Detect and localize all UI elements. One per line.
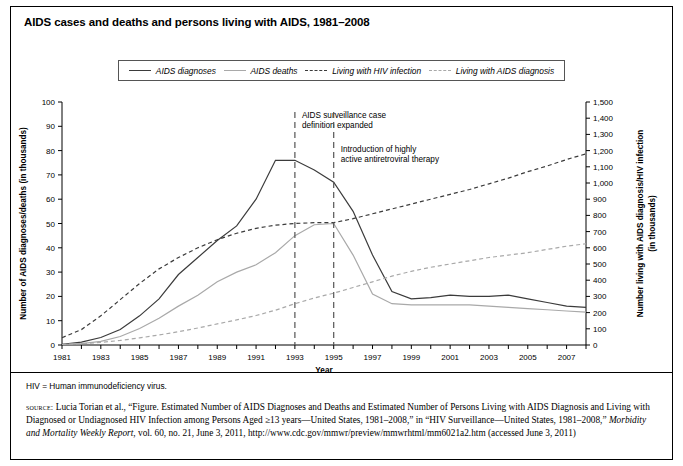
x-tick-label: 1983 bbox=[92, 353, 110, 362]
figure-page: AIDS cases and deaths and persons living… bbox=[0, 0, 683, 466]
y-tick-label-right: 0 bbox=[593, 341, 598, 350]
y-tick-label-left: 0 bbox=[51, 341, 56, 350]
y-axis-title-right-line: Number living with AIDS diagnosis/HIV in… bbox=[636, 130, 645, 318]
annotation-text-1993: AIDS surveillance case bbox=[302, 111, 387, 120]
x-tick-label: 1997 bbox=[364, 353, 382, 362]
y-tick-label-right: 1,400 bbox=[593, 114, 614, 123]
annotation-text-1993: definition expanded bbox=[302, 121, 373, 130]
x-tick-label: 2007 bbox=[558, 353, 576, 362]
x-tick-label: 1989 bbox=[208, 353, 226, 362]
source-label: source: bbox=[26, 403, 53, 412]
y-tick-label-left: 50 bbox=[46, 220, 55, 229]
y-tick-label-right: 900 bbox=[593, 195, 607, 204]
x-tick-label: 1993 bbox=[286, 353, 304, 362]
y-tick-label-right: 200 bbox=[593, 309, 607, 318]
y-tick-label-right: 700 bbox=[593, 228, 607, 237]
y-axis-title-left: Number of AIDS diagnoses/deaths (in thou… bbox=[19, 127, 28, 320]
y-tick-label-left: 20 bbox=[46, 292, 55, 301]
x-tick-label: 1995 bbox=[325, 353, 343, 362]
series-line-aids-deaths bbox=[62, 224, 586, 345]
y-tick-label-left: 30 bbox=[46, 268, 55, 277]
x-tick-label: 2003 bbox=[480, 353, 498, 362]
series-line-living-with-hiv-infection bbox=[62, 154, 586, 338]
y-tick-label-left: 90 bbox=[46, 122, 55, 131]
x-tick-label: 1991 bbox=[247, 353, 265, 362]
y-tick-label-left: 40 bbox=[46, 244, 55, 253]
y-tick-label-right: 1,200 bbox=[593, 147, 614, 156]
chart-area: 0102030405060708090100010020030040050060… bbox=[0, 0, 683, 380]
y-tick-label-right: 300 bbox=[593, 292, 607, 301]
series-line-aids-diagnoses bbox=[62, 160, 586, 344]
y-tick-label-left: 60 bbox=[46, 195, 55, 204]
series-line-living-with-aids-diagnosis bbox=[62, 244, 586, 345]
x-tick-label: 1985 bbox=[131, 353, 149, 362]
y-tick-label-right: 1,000 bbox=[593, 179, 614, 188]
y-axis-title-right-line: (in thousands) bbox=[648, 195, 657, 252]
x-tick-label: 1981 bbox=[53, 353, 71, 362]
y-tick-label-right: 600 bbox=[593, 244, 607, 253]
y-tick-label-right: 500 bbox=[593, 260, 607, 269]
y-tick-label-right: 1,500 bbox=[593, 98, 614, 107]
source-text-2: , vol. 60, no. 21, June 3, 2011, http://… bbox=[133, 428, 576, 438]
x-tick-label: 1987 bbox=[170, 353, 188, 362]
y-tick-label-left: 80 bbox=[46, 147, 55, 156]
y-tick-label-right: 100 bbox=[593, 325, 607, 334]
x-axis-title: Year bbox=[315, 366, 333, 375]
x-tick-label: 2005 bbox=[519, 353, 537, 362]
divider bbox=[10, 372, 673, 373]
annotation-text-1995: Introduction of highly bbox=[341, 145, 417, 154]
x-tick-label: 1999 bbox=[402, 353, 420, 362]
annotation-text-1995: active antiretroviral therapy bbox=[341, 155, 440, 164]
y-tick-label-right: 800 bbox=[593, 211, 607, 220]
abbreviation-note: HIV = Human immunodeficiency virus. bbox=[26, 381, 167, 391]
y-tick-label-right: 400 bbox=[593, 276, 607, 285]
y-tick-label-left: 70 bbox=[46, 171, 55, 180]
chart-svg: 0102030405060708090100010020030040050060… bbox=[0, 0, 683, 380]
x-tick-label: 2001 bbox=[441, 353, 459, 362]
y-tick-label-right: 1,100 bbox=[593, 163, 614, 172]
source-note: source: Lucia Torian et al., “Figure. Es… bbox=[26, 401, 654, 439]
y-axis-title-right: Number living with AIDS diagnosis/HIV in… bbox=[636, 130, 657, 318]
y-tick-label-left: 100 bbox=[42, 98, 56, 107]
source-text-1: Lucia Torian et al., “Figure. Estimated … bbox=[26, 402, 650, 425]
y-tick-label-right: 1,300 bbox=[593, 130, 614, 139]
y-tick-label-left: 10 bbox=[46, 317, 55, 326]
